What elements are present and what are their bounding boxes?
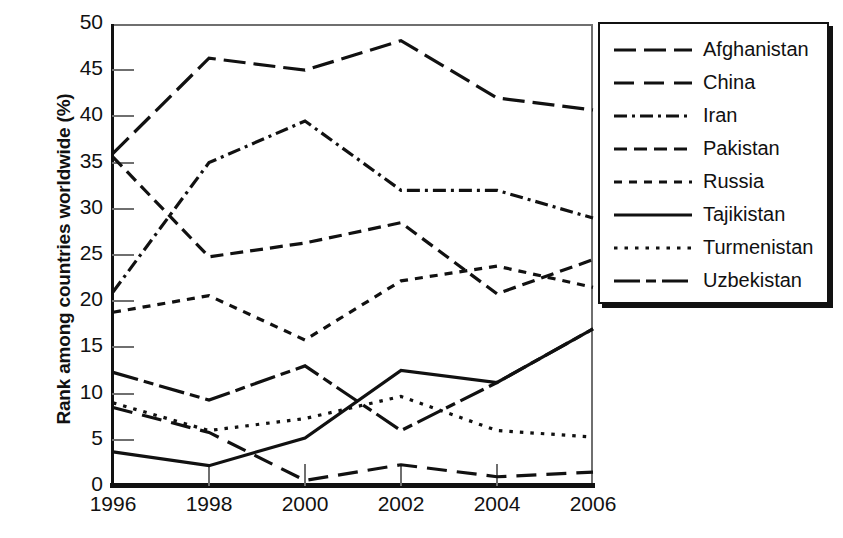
- legend-item-uzbekistan[interactable]: Uzbekistan: [600, 264, 827, 297]
- data-lines: [113, 24, 593, 486]
- x-tick-label: 2002: [356, 492, 446, 516]
- legend-line-swatch: [613, 273, 693, 289]
- legend-item-label: Uzbekistan: [703, 269, 802, 292]
- x-tick-label: 1998: [164, 492, 254, 516]
- y-tick-label: 20: [57, 287, 103, 311]
- legend-line-swatch: [613, 141, 693, 157]
- series-line-afghanistan: [113, 41, 593, 154]
- y-tick-label: 50: [57, 10, 103, 34]
- chart-figure: Rank among countries worldwide (%) 05101…: [0, 0, 843, 538]
- legend-item-label: Tajikistan: [703, 203, 785, 226]
- y-tick-label: 45: [57, 56, 103, 80]
- series-line-iran: [113, 121, 593, 292]
- legend-item-afghanistan[interactable]: Afghanistan: [600, 33, 827, 66]
- series-line-uzbekistan: [113, 329, 593, 431]
- series-line-russia: [113, 266, 593, 340]
- series-line-china: [113, 407, 593, 480]
- legend-item-label: Afghanistan: [703, 38, 809, 61]
- y-tick-label: 30: [57, 195, 103, 219]
- y-tick-label: 40: [57, 102, 103, 126]
- x-tick-label: 2000: [260, 492, 350, 516]
- legend-item-pakistan[interactable]: Pakistan: [600, 132, 827, 165]
- legend-item-tajikistan[interactable]: Tajikistan: [600, 198, 827, 231]
- legend-item-iran[interactable]: Iran: [600, 99, 827, 132]
- legend-item-turmenistan[interactable]: Turmenistan: [600, 231, 827, 264]
- legend-item-label: Pakistan: [703, 137, 780, 160]
- y-tick-label: 10: [57, 380, 103, 404]
- y-tick-label: 25: [57, 241, 103, 265]
- x-tick-label: 1996: [68, 492, 158, 516]
- legend-line-swatch: [613, 207, 693, 223]
- legend-box: AfghanistanChinaIranPakistanRussiaTajiki…: [598, 22, 829, 304]
- legend-line-swatch: [613, 108, 693, 124]
- y-tick-label: 15: [57, 333, 103, 357]
- legend-item-label: Russia: [703, 170, 764, 193]
- y-tick-label: 35: [57, 149, 103, 173]
- legend-line-swatch: [613, 174, 693, 190]
- legend-item-russia[interactable]: Russia: [600, 165, 827, 198]
- plot-area: [113, 24, 593, 486]
- x-tick-label: 2004: [452, 492, 542, 516]
- series-line-pakistan: [113, 157, 593, 294]
- legend-item-label: China: [703, 71, 755, 94]
- legend-line-swatch: [613, 75, 693, 91]
- legend-item-label: Turmenistan: [703, 236, 813, 259]
- y-tick-label: 5: [57, 426, 103, 450]
- legend-item-china[interactable]: China: [600, 66, 827, 99]
- legend-line-swatch: [613, 42, 693, 58]
- legend-line-swatch: [613, 240, 693, 256]
- x-tick-label: 2006: [548, 492, 638, 516]
- legend-item-label: Iran: [703, 104, 737, 127]
